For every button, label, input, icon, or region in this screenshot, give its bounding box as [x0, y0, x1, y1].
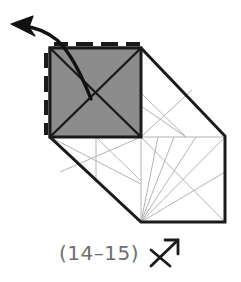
- upper-crease-b-line: [141, 106, 186, 137]
- upper-crease-c-line: [141, 90, 192, 137]
- figure-root: (14–15): [0, 0, 241, 282]
- step-range-label: (14–15): [59, 243, 139, 263]
- side-crease-diagonal-c-line: [60, 137, 141, 172]
- caption-row: (14–15): [0, 232, 241, 274]
- side-crease-diagonal-b-line: [96, 137, 141, 181]
- cross-with-up-right-arrow-icon: [148, 237, 182, 269]
